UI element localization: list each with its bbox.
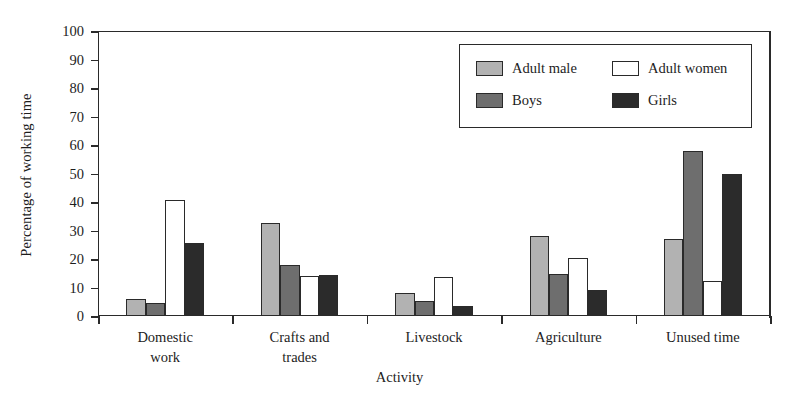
y-axis-tick-mark: [91, 259, 98, 261]
y-axis-tick: 20: [0, 259, 98, 260]
x-axis-tick-mark: [636, 316, 638, 324]
x-axis-tick-mark: [770, 316, 772, 324]
bar: [395, 293, 414, 316]
legend-label: Boys: [512, 90, 542, 110]
y-axis-tick-mark: [91, 60, 98, 62]
bar: [319, 275, 338, 316]
y-axis-title: Percentage of working time: [14, 30, 38, 320]
bar: [664, 239, 683, 316]
bar: [588, 290, 607, 317]
y-axis-tick-mark: [91, 145, 98, 147]
y-axis-tick-mark: [91, 288, 98, 290]
x-axis-tick-mark: [501, 316, 503, 324]
x-axis-group-label: Unused time: [633, 327, 773, 347]
bar: [126, 299, 145, 316]
bar: [261, 223, 280, 316]
y-axis-tick-mark: [91, 202, 98, 204]
y-axis-tick: 50: [0, 174, 98, 175]
legend-swatch: [612, 93, 639, 108]
y-axis-tick: 100: [0, 31, 98, 32]
y-axis-tick: 80: [0, 88, 98, 89]
y-axis-tick-mark: [91, 231, 98, 233]
y-axis-tick-mark: [91, 31, 98, 33]
y-axis-tick-label: 40: [70, 192, 85, 212]
x-axis-group-label: Crafts andtrades: [230, 327, 370, 367]
x-axis-group-label-line: Domestic: [95, 327, 235, 347]
bar: [165, 200, 184, 316]
legend-label: Adult women: [648, 58, 727, 78]
y-axis-tick-label: 80: [70, 78, 85, 98]
y-axis-tick-label: 90: [70, 50, 85, 70]
y-axis-tick: 0: [0, 316, 98, 317]
y-axis-tick: 10: [0, 288, 98, 289]
y-axis-tick: 70: [0, 117, 98, 118]
y-axis-tick-label: 20: [70, 249, 85, 269]
legend: Adult maleAdult womenBoysGirls: [459, 44, 752, 128]
y-axis-tick-label: 70: [70, 107, 85, 127]
bar-chart-figure: Percentage of working time 1009080706050…: [0, 0, 799, 402]
y-axis-tick-mark: [91, 316, 98, 318]
y-axis-tick-mark: [91, 88, 98, 90]
x-axis-group-label: Agriculture: [498, 327, 638, 347]
bar: [146, 303, 165, 316]
y-axis-tick-label: 30: [70, 221, 85, 241]
x-axis-group-label: Domesticwork: [95, 327, 235, 367]
legend-swatch: [476, 93, 503, 108]
y-axis-tick: 30: [0, 231, 98, 232]
legend-label: Girls: [648, 90, 677, 110]
bar: [549, 274, 568, 316]
legend-item: Girls: [612, 89, 677, 111]
y-axis-tick-mark: [91, 174, 98, 176]
y-axis-tick-label: 60: [70, 135, 85, 155]
bar: [280, 265, 299, 316]
bar: [703, 281, 722, 316]
y-axis-tick: 90: [0, 60, 98, 61]
y-axis-tick-mark: [91, 117, 98, 119]
legend-item: Boys: [476, 89, 542, 111]
y-axis-tick: 60: [0, 145, 98, 146]
legend-label: Adult male: [512, 58, 577, 78]
x-axis-group-label-line: trades: [230, 347, 370, 367]
x-axis-group-label-line: work: [95, 347, 235, 367]
x-axis-tick-mark: [98, 316, 100, 324]
y-axis-tick-label: 100: [62, 21, 84, 41]
legend-item: Adult male: [476, 57, 577, 79]
bar: [300, 276, 319, 316]
legend-swatch: [612, 61, 639, 76]
x-axis-title: Activity: [0, 367, 799, 387]
bar: [415, 301, 434, 316]
bar: [530, 236, 549, 316]
y-axis-tick-label: 0: [77, 306, 84, 326]
x-axis-tick-mark: [367, 316, 369, 324]
y-axis-tick-label: 50: [70, 164, 85, 184]
bar: [185, 243, 204, 316]
bar: [683, 151, 702, 316]
x-axis-group-label-line: Livestock: [364, 327, 504, 347]
y-axis-tick-label: 10: [70, 278, 85, 298]
legend-swatch: [476, 61, 503, 76]
x-axis-group-label-line: Agriculture: [498, 327, 638, 347]
bar: [434, 277, 453, 316]
legend-item: Adult women: [612, 57, 727, 79]
bar: [568, 258, 587, 316]
x-axis-group-label-line: Unused time: [633, 327, 773, 347]
bar: [453, 306, 472, 316]
x-axis-tick-mark: [232, 316, 234, 324]
x-axis-group-label: Livestock: [364, 327, 504, 347]
bar: [722, 174, 741, 316]
y-axis-tick: 40: [0, 202, 98, 203]
x-axis-group-label-line: Crafts and: [230, 327, 370, 347]
